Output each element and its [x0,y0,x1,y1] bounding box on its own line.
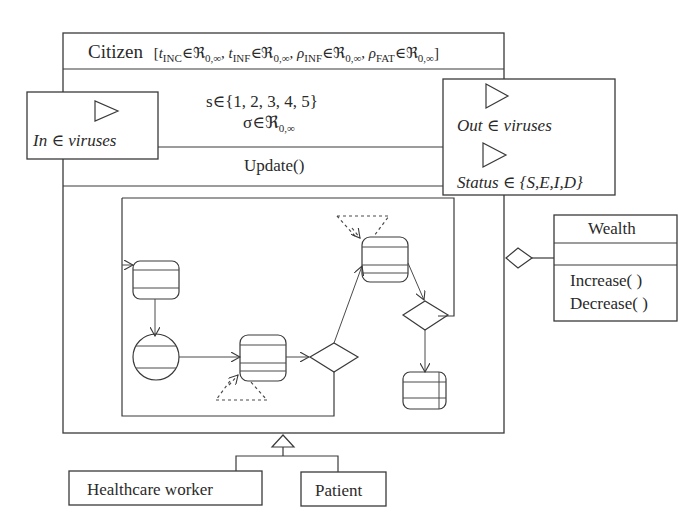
citizen-class-diagram [0,0,699,532]
wealth-op-decrease: Decrease( ) [570,295,648,312]
generalization-triangle-icon [272,435,294,447]
input-port-label: In ∈ viruses [33,132,116,149]
citizen-header: Citizen [tINC∈ℜ0,∞, tINF∈ℜ0,∞, ρINF∈ℜ0,∞… [88,42,439,64]
class-name: Citizen [88,41,143,62]
subclass-patient: Patient [315,482,362,499]
attribute-s: s∈{1, 2, 3, 4, 5} [206,93,318,110]
aggregation-diamond-icon [506,248,532,268]
status-port-label: Status ∈ {S,E,I,D} [457,174,583,191]
subclass-healthcare-worker: Healthcare worker [87,481,213,498]
attribute-sigma: σ∈ℜ0,∞ [243,114,295,134]
wealth-class-name: Wealth [588,220,636,237]
output-port-label: Out ∈ viruses [457,117,552,134]
class-params: [tINC∈ℜ0,∞, tINF∈ℜ0,∞, ρINF∈ℜ0,∞, ρFAT∈ℜ… [154,45,439,61]
operation-update: Update() [244,157,304,174]
wealth-op-increase: Increase( ) [570,272,642,289]
generalization-lines [236,447,338,472]
